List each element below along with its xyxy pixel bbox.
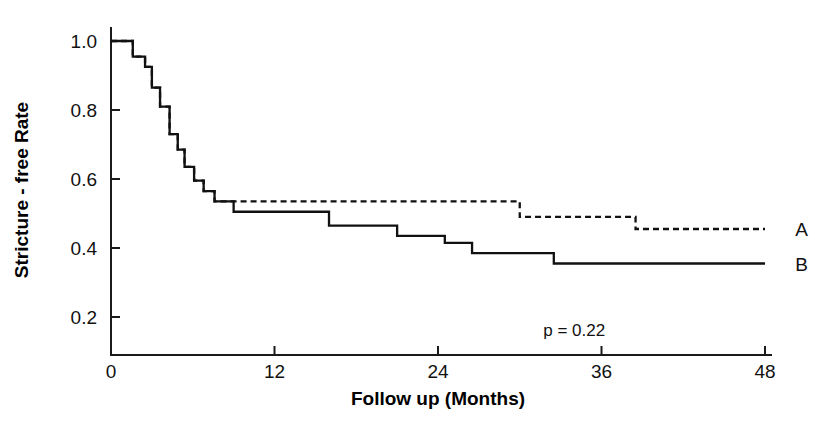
y-tick-label: 0.8 [71, 100, 97, 121]
y-tick-label: 0.2 [71, 307, 97, 328]
y-axis-group: 0.20.40.60.81.0 [71, 28, 120, 355]
survival-curves-group [111, 41, 765, 264]
x-tick-label: 48 [754, 361, 775, 382]
series-label-b: B [795, 254, 808, 275]
x-axis-ticks: 012243648 [106, 346, 776, 382]
y-tick-label: 0.4 [71, 238, 98, 259]
y-tick-label: 1.0 [71, 31, 97, 52]
x-axis-group: 012243648 [106, 346, 776, 382]
y-tick-label: 0.6 [71, 169, 97, 190]
annotations-group: p = 0.22 [543, 321, 605, 340]
x-tick-label: 0 [106, 361, 117, 382]
x-tick-label: 36 [591, 361, 612, 382]
kaplan-meier-figure: 0.20.40.60.81.0 012243648 AB p = 0.22 Fo… [0, 0, 815, 427]
survival-plot-svg: 0.20.40.60.81.0 012243648 AB p = 0.22 Fo… [0, 0, 815, 427]
y-axis-title: Stricture - free Rate [11, 102, 32, 278]
y-axis-ticks: 0.20.40.60.81.0 [71, 31, 120, 328]
x-tick-label: 24 [427, 361, 449, 382]
x-axis-title: Follow up (Months) [351, 388, 525, 409]
survival-curve-a [111, 41, 765, 229]
series-labels-group: AB [795, 219, 808, 275]
series-label-a: A [795, 219, 808, 240]
p-value-annotation: p = 0.22 [543, 321, 605, 340]
x-tick-label: 12 [264, 361, 285, 382]
